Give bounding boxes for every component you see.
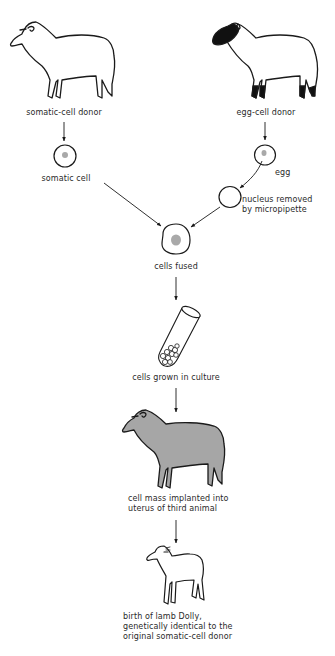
implant-line-2: uterus of third animal bbox=[128, 504, 229, 514]
diagram-artwork bbox=[0, 0, 335, 656]
somatic-cell-label: somatic cell bbox=[41, 174, 90, 184]
birth-of-dolly-label: birth of lamb Dolly, genetically identic… bbox=[123, 612, 233, 642]
lamb-icon bbox=[147, 546, 204, 604]
cells-grown-label: cells grown in culture bbox=[132, 373, 220, 383]
fused-cell-icon bbox=[162, 224, 190, 254]
egg-cell-donor-label: egg-cell donor bbox=[237, 108, 296, 118]
cell-mass-implanted-label: cell mass implanted into uterus of third… bbox=[128, 494, 229, 514]
empty-cell-icon bbox=[219, 187, 241, 208]
arrow-somatic-to-fused bbox=[104, 183, 161, 226]
nucleus-removed-label: nucleus removed by micropipette bbox=[242, 195, 312, 215]
cloning-diagram: somatic-cell donor egg-cell donor somati… bbox=[0, 0, 335, 656]
cell-with-nucleus-icon bbox=[54, 145, 76, 167]
arrow-enucleated-to-fused bbox=[191, 207, 220, 227]
dolly-line-1: birth of lamb Dolly, bbox=[123, 612, 233, 622]
arrow-egg-to-enucleated bbox=[240, 161, 262, 188]
white-sheep-icon bbox=[11, 22, 115, 98]
egg-label: egg bbox=[275, 168, 290, 178]
nucleus-removed-line-2: by micropipette bbox=[242, 205, 312, 215]
dolly-line-2: genetically identical to the bbox=[123, 622, 233, 632]
cells-fused-label: cells fused bbox=[154, 262, 198, 272]
nucleus-removed-line-1: nucleus removed bbox=[242, 195, 312, 205]
test-tube-icon bbox=[159, 304, 202, 366]
black-faced-sheep-icon bbox=[213, 23, 318, 98]
somatic-cell-donor-label: somatic-cell donor bbox=[26, 108, 102, 118]
gray-sheep-icon bbox=[123, 410, 225, 488]
implant-line-1: cell mass implanted into bbox=[128, 494, 229, 504]
dolly-line-3: original somatic-cell donor bbox=[123, 632, 233, 642]
egg-cell-icon bbox=[255, 145, 276, 165]
